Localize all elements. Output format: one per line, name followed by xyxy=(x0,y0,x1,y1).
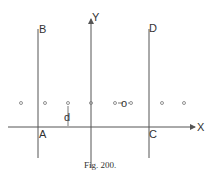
label-a: A xyxy=(39,128,47,140)
label-y: Y xyxy=(92,11,100,23)
caption: Fig. 200. xyxy=(84,160,116,170)
label-x: X xyxy=(197,121,205,133)
point xyxy=(114,102,117,105)
point xyxy=(183,102,186,105)
label-b: B xyxy=(39,23,46,35)
diagram-canvas: o d B Y D X A C Fig. 200. xyxy=(0,0,210,175)
point xyxy=(130,102,133,105)
point xyxy=(20,102,23,105)
figure: o d B Y D X A C Fig. 200. xyxy=(0,0,210,175)
label-d-line: D xyxy=(149,22,157,34)
point xyxy=(161,102,164,105)
point-row xyxy=(20,102,186,105)
label-c: C xyxy=(149,128,157,140)
center-label: o xyxy=(121,97,127,109)
point xyxy=(67,102,70,105)
point xyxy=(44,102,47,105)
label-d: d xyxy=(64,111,70,123)
